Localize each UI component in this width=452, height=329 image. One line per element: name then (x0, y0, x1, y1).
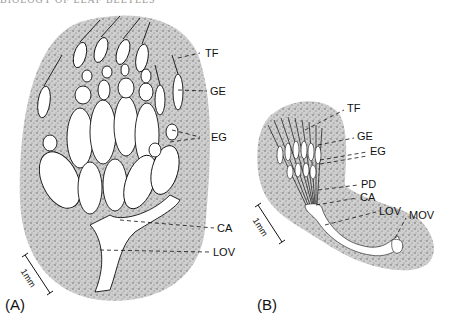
figure-drawing (0, 0, 452, 329)
label-a-ge: GE (210, 86, 226, 97)
label-b-mov: MOV (409, 210, 434, 221)
label-b-ge: GE (357, 131, 373, 142)
panel-label-b: (B) (257, 296, 277, 313)
label-a-eg: EG (211, 132, 227, 143)
label-a-lov: LOV (213, 247, 235, 258)
label-b-tf: TF (347, 103, 360, 114)
label-a-tf: TF (205, 48, 218, 59)
label-b-eg: EG (370, 146, 386, 157)
panel-b-ovary (255, 101, 434, 270)
label-b-lov: LOV (379, 206, 401, 217)
panel-label-a: (A) (5, 296, 25, 313)
label-b-ca: CA (360, 192, 375, 203)
label-a-ca: CA (217, 223, 232, 234)
label-b-pd: PD (361, 179, 376, 190)
panel-a-ovary (20, 16, 214, 301)
